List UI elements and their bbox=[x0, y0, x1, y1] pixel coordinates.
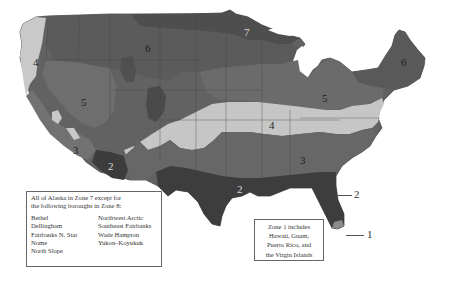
zone-1-leader-line bbox=[346, 235, 364, 236]
zone-7-north-label: 7 bbox=[244, 27, 250, 38]
zone-1-note-line3: Puerto Rico, and bbox=[255, 240, 323, 249]
alaska-boroughs-column-2: Northwest Arctic Southeast Fairbanks Wad… bbox=[98, 214, 151, 256]
alaska-boroughs-column-1: Bethel Dellingham Fairbanks N. Star Nome… bbox=[31, 214, 98, 256]
borough-item: North Slope bbox=[31, 247, 98, 255]
zone-6-northeast-label: 6 bbox=[401, 57, 407, 68]
zone-1-note-box: Zone 1 includes Hawaii, Guam, Puerto Ric… bbox=[254, 219, 324, 261]
zone-3-west-label: 3 bbox=[73, 145, 79, 156]
borough-item: Wade Hampton bbox=[98, 231, 151, 239]
zone-1-callout-label: 1 bbox=[367, 229, 373, 240]
borough-item: Northwest Arctic bbox=[98, 214, 151, 222]
zone-1-note-line2: Hawaii, Guam, bbox=[255, 231, 323, 240]
alaska-boroughs-list: Bethel Dellingham Fairbanks N. Star Nome… bbox=[31, 214, 157, 256]
borough-item: Fairbanks N. Star bbox=[31, 231, 98, 239]
alaska-note-heading-line2: the following boroughs in Zone 8: bbox=[31, 202, 157, 210]
zone-3-southeast-label: 3 bbox=[300, 155, 306, 166]
zone-1-note-line1: Zone 1 includes bbox=[255, 222, 323, 231]
zone-6-west-label: 6 bbox=[145, 43, 151, 54]
zone-2-leader-line bbox=[338, 195, 352, 196]
borough-item: Yukon–Koyukuk bbox=[98, 239, 151, 247]
zone-2-callout-label: 2 bbox=[354, 189, 360, 200]
zone-1-note-line4: the Virgin Islands bbox=[255, 250, 323, 259]
borough-item: Nome bbox=[31, 239, 98, 247]
borough-item: Southeast Fairbanks bbox=[98, 222, 151, 230]
alaska-note-heading-line1: All of Alaska in Zone 7 except for bbox=[31, 194, 157, 202]
zone-2-southwest-label: 2 bbox=[108, 161, 114, 172]
zone-2-gulf-label: 2 bbox=[237, 184, 243, 195]
zone-4-west-label: 4 bbox=[33, 57, 39, 68]
zone-6-northeast-region bbox=[352, 30, 425, 90]
zone-5-west-label: 5 bbox=[81, 97, 87, 108]
zone-5-east-label: 5 bbox=[322, 93, 328, 104]
borough-item: Bethel bbox=[31, 214, 98, 222]
borough-item: Dellingham bbox=[31, 222, 98, 230]
alaska-note-box: All of Alaska in Zone 7 except for the f… bbox=[26, 191, 162, 267]
zone-4-central-label: 4 bbox=[269, 120, 275, 131]
